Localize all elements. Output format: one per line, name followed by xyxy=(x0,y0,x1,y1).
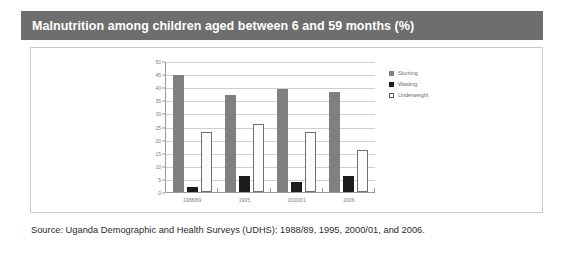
y-axis-tick-mark xyxy=(162,62,165,63)
bar-underweight xyxy=(305,132,316,192)
bar-stunting xyxy=(173,75,184,192)
y-axis-tick-mark xyxy=(162,88,165,89)
source-note: Source: Uganda Demographic and Health Su… xyxy=(31,225,425,235)
figure-header-bar: Malnutrition among children aged between… xyxy=(21,11,543,40)
bar-wasting xyxy=(187,187,198,192)
y-axis-tick-mark xyxy=(162,101,165,102)
x-axis-line xyxy=(165,192,375,193)
x-axis-tick-label: 1988/89 xyxy=(183,197,201,203)
y-axis-tick-label: 45 xyxy=(155,72,161,78)
y-axis-tick-label: 15 xyxy=(155,151,161,157)
y-axis-tick-label: 0 xyxy=(158,190,161,196)
y-axis-tick-label: 10 xyxy=(155,164,161,170)
figure-panel: Malnutrition among children aged between… xyxy=(0,0,572,254)
y-axis-tick-mark xyxy=(162,179,165,180)
plot-area: 50454035302520151050 1988/8919952000/012… xyxy=(165,62,375,193)
bar-wasting xyxy=(291,182,302,192)
y-axis-tick-label: 5 xyxy=(158,177,161,183)
bar-stunting xyxy=(277,89,288,192)
legend-item: Wasting xyxy=(389,81,428,87)
bar-group: 1995 xyxy=(218,62,270,192)
y-axis-tick-label: 35 xyxy=(155,98,161,104)
y-axis-tick-mark xyxy=(162,140,165,141)
legend-label: Underweight xyxy=(398,92,428,98)
bar-wasting xyxy=(343,176,354,192)
bar-group: 1988/89 xyxy=(166,62,218,192)
bar-group: 2006 xyxy=(323,62,375,192)
x-axis-tick-label: 2006 xyxy=(343,197,354,203)
bar-underweight xyxy=(201,132,212,192)
chart-legend: StuntingWastingUnderweight xyxy=(389,70,428,98)
legend-label: Wasting xyxy=(398,81,417,87)
y-axis-tick-label: 25 xyxy=(155,125,161,131)
x-axis-tick-label: 2000/01 xyxy=(288,197,306,203)
y-axis-tick-mark xyxy=(162,127,165,128)
legend-label: Stunting xyxy=(398,70,418,76)
legend-swatch-icon xyxy=(389,82,394,87)
legend-item: Stunting xyxy=(389,70,428,76)
bar-stunting xyxy=(225,95,236,193)
y-axis-tick-label: 40 xyxy=(155,85,161,91)
legend-swatch-icon xyxy=(389,93,394,98)
legend-swatch-icon xyxy=(389,71,394,76)
bar-groups: 1988/8919952000/012006 xyxy=(166,62,375,192)
bar-stunting xyxy=(329,92,340,192)
y-axis-tick-label: 20 xyxy=(155,138,161,144)
bar-underweight xyxy=(253,124,264,192)
chart-container: 50454035302520151050 1988/8919952000/012… xyxy=(30,47,543,213)
bar-underweight xyxy=(357,150,368,192)
x-axis-tick-mark xyxy=(374,188,375,192)
y-axis-tick-mark xyxy=(162,114,165,115)
y-axis-tick-label: 30 xyxy=(155,111,161,117)
y-axis-tick-mark xyxy=(162,153,165,154)
y-axis-tick-mark xyxy=(162,193,165,194)
bar-group: 2000/01 xyxy=(271,62,323,192)
y-axis-tick-label: 50 xyxy=(155,59,161,65)
y-axis-tick-mark xyxy=(162,75,165,76)
bar-wasting xyxy=(239,176,250,192)
legend-item: Underweight xyxy=(389,92,428,98)
x-axis-tick-label: 1995 xyxy=(239,197,250,203)
page-title: Malnutrition among children aged between… xyxy=(32,19,414,33)
y-axis-tick-mark xyxy=(162,166,165,167)
